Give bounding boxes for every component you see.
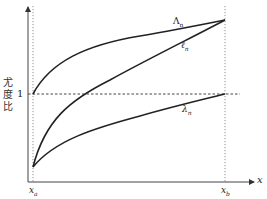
- y-axis-label-char-2: 度: [3, 90, 13, 100]
- x-b-tick-label: xb: [221, 186, 230, 197]
- y-axis-label-char-3: 比: [3, 102, 13, 112]
- ell-n-subscript: n: [185, 45, 189, 52]
- likelihood-ratio-diagram: 尤 度 比 1 x xa xb Λn ℓn λn: [0, 0, 267, 199]
- y-tick-label-one: 1: [17, 89, 23, 99]
- x-b-subscript: b: [226, 190, 230, 197]
- curve-Lambda-n: [33, 20, 225, 94]
- x-axis-label: x: [257, 175, 263, 185]
- y-axis-label-char-1: 尤: [3, 78, 13, 88]
- Lambda-n-label: Λn: [173, 17, 183, 28]
- x-a-tick-label: xa: [29, 186, 38, 197]
- ell-n-label: ℓn: [181, 41, 189, 52]
- x-a-subscript: a: [34, 190, 38, 197]
- Lambda-n-subscript: n: [180, 21, 184, 28]
- curve-lambda-n: [33, 94, 225, 167]
- lambda-n-subscript: n: [188, 109, 192, 116]
- lambda-n-label: λn: [182, 105, 192, 116]
